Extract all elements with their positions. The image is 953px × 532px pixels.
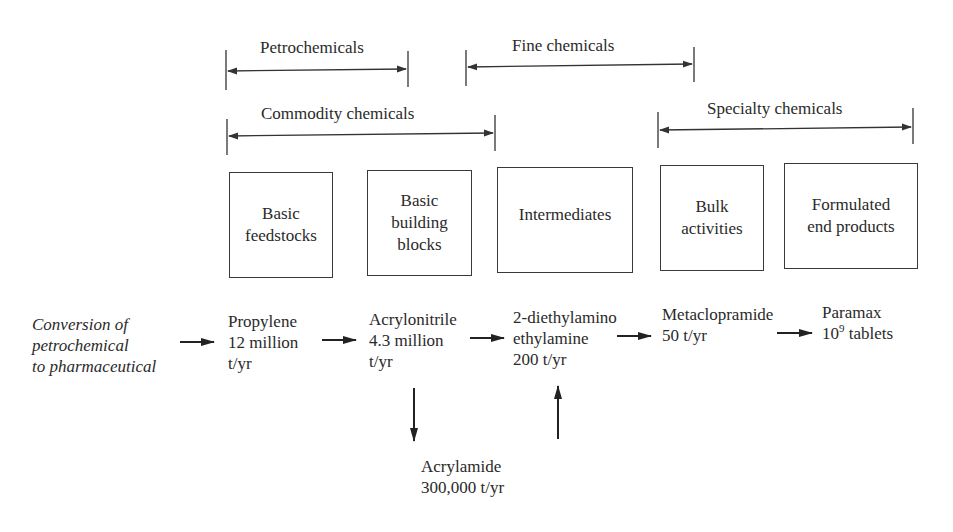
node-name: Paramax — [822, 302, 893, 323]
intro-line: to pharmaceutical — [32, 356, 156, 377]
metaclopramide-node: Metaclopramide 50 t/yr — [662, 304, 773, 346]
node-quantity: 200 t/yr — [513, 349, 617, 370]
box-line: feedstocks — [245, 225, 317, 247]
paramax-node: Paramax 109 tablets — [822, 302, 893, 344]
box-formulated-end-products: Formulated end products — [784, 163, 918, 269]
acrylonitrile-node: Acrylonitrile 4.3 million t/yr — [369, 309, 457, 372]
box-line: Intermediates — [519, 204, 612, 226]
box-basic-feedstocks: Basic feedstocks — [229, 172, 333, 278]
acrylamide-node: Acrylamide 300,000 t/yr — [421, 456, 504, 498]
node-name: Acrylamide — [421, 456, 504, 477]
box-line: Basic — [262, 203, 300, 225]
propylene-node: Propylene 12 million t/yr — [228, 311, 298, 374]
box-line: Formulated — [812, 194, 890, 216]
node-quantity: 300,000 t/yr — [421, 477, 504, 498]
fine-chemicals-label: Fine chemicals — [512, 36, 614, 56]
diethylamino-ethylamine-node: 2-diethylamino ethylamine 200 t/yr — [513, 307, 617, 370]
box-intermediates: Intermediates — [497, 167, 633, 273]
node-quantity: 12 million — [228, 332, 298, 353]
node-quantity: 50 t/yr — [662, 325, 773, 346]
quantity-unit: tablets — [845, 324, 894, 343]
node-unit: t/yr — [369, 351, 457, 372]
quantity-base: 10 — [822, 324, 839, 343]
box-line: activities — [681, 218, 742, 240]
specialty-chemicals-label: Specialty chemicals — [707, 99, 842, 119]
box-line: building — [391, 212, 448, 234]
node-quantity: 4.3 million — [369, 330, 457, 351]
petrochemicals-label: Petrochemicals — [260, 38, 364, 58]
conversion-intro: Conversion of petrochemical to pharmaceu… — [32, 314, 156, 377]
box-basic-building-blocks: Basic building blocks — [367, 170, 472, 276]
box-line: blocks — [397, 234, 441, 256]
node-name: Acrylonitrile — [369, 309, 457, 330]
intro-line: petrochemical — [32, 335, 156, 356]
box-line: end products — [807, 216, 894, 238]
box-line: Bulk — [695, 196, 728, 218]
intro-line: Conversion of — [32, 314, 156, 335]
box-line: Basic — [401, 190, 439, 212]
node-unit: t/yr — [228, 353, 298, 374]
node-name-cont: ethylamine — [513, 328, 617, 349]
box-bulk-activities: Bulk activities — [660, 165, 764, 271]
commodity-chemicals-label: Commodity chemicals — [261, 104, 414, 124]
node-name: Propylene — [228, 311, 298, 332]
node-quantity: 109 tablets — [822, 323, 893, 344]
node-name: Metaclopramide — [662, 304, 773, 325]
node-name: 2-diethylamino — [513, 307, 617, 328]
